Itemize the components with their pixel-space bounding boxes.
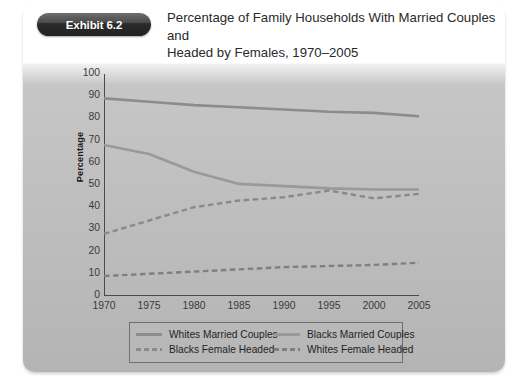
x-tick-label: 1980 xyxy=(174,300,214,311)
x-tick-label: 1990 xyxy=(264,300,304,311)
chart-legend: Whites Married Couples Blacks Married Co… xyxy=(129,322,403,363)
y-tick-label: 60 xyxy=(70,156,100,167)
y-tick-label: 40 xyxy=(70,200,100,211)
legend-swatch-solid xyxy=(274,333,300,336)
legend-row: Whites Married Couples Blacks Married Co… xyxy=(136,327,396,342)
legend-item-blacks-married-couples: Blacks Married Couples xyxy=(266,329,396,340)
exhibit-title: Percentage of Family Households With Mar… xyxy=(167,9,497,62)
legend-swatch-dashed xyxy=(274,348,300,351)
plot-canvas xyxy=(104,74,419,296)
x-tick-label: 1985 xyxy=(219,300,259,311)
exhibit-badge-label: Exhibit 6.2 xyxy=(66,19,122,31)
y-tick-label: 70 xyxy=(70,134,100,145)
y-tick-label: 90 xyxy=(70,89,100,100)
legend-label: Whites Married Couples xyxy=(169,329,278,340)
plot-wrapper: Percentage 0102030405060708090100 197019… xyxy=(79,74,419,306)
legend-label: Blacks Married Couples xyxy=(307,329,415,340)
exhibit-badge: Exhibit 6.2 xyxy=(37,13,151,36)
legend-row: Blacks Female Headed Whites Female Heade… xyxy=(136,342,396,357)
legend-label: Whites Female Headed xyxy=(307,344,413,355)
chart-area: Percentage 0102030405060708090100 197019… xyxy=(23,62,505,372)
exhibit-title-line-2: Headed by Females, 1970–2005 xyxy=(167,44,497,62)
exhibit-title-line-1: Percentage of Family Households With Mar… xyxy=(167,9,497,44)
legend-swatch-dashed xyxy=(136,348,162,351)
x-tick-label: 1975 xyxy=(129,300,169,311)
y-tick-label: 10 xyxy=(70,267,100,278)
legend-item-blacks-female-headed: Blacks Female Headed xyxy=(136,344,266,355)
y-tick-label: 100 xyxy=(70,67,100,78)
legend-label: Blacks Female Headed xyxy=(169,344,274,355)
y-tick-label: 50 xyxy=(70,178,100,189)
y-tick-label: 20 xyxy=(70,245,100,256)
legend-item-whites-married-couples: Whites Married Couples xyxy=(136,329,266,340)
exhibit-panel: Exhibit 6.2 Percentage of Family Househo… xyxy=(23,4,505,372)
y-tick-label: 80 xyxy=(70,111,100,122)
x-tick-label: 1970 xyxy=(84,300,124,311)
y-tick-label: 0 xyxy=(70,289,100,300)
x-tick-label: 2005 xyxy=(399,300,439,311)
x-tick-label: 1995 xyxy=(309,300,349,311)
exhibit-header: Exhibit 6.2 Percentage of Family Househo… xyxy=(23,4,505,62)
legend-item-whites-female-headed: Whites Female Headed xyxy=(266,344,396,355)
y-tick-label: 30 xyxy=(70,222,100,233)
x-tick-label: 2000 xyxy=(354,300,394,311)
legend-swatch-solid xyxy=(136,333,162,336)
